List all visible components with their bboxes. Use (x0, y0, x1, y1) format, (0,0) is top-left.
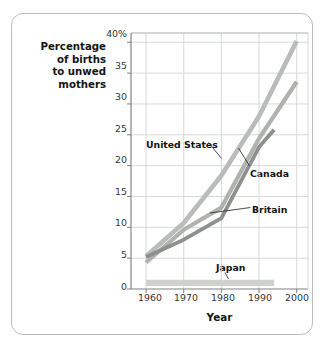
chart-plot-area (0, 0, 326, 348)
leader-united-states (209, 143, 222, 159)
chart-figure: Percentage of births to unwed mothers 40… (0, 0, 326, 348)
leader-japan (225, 273, 229, 280)
